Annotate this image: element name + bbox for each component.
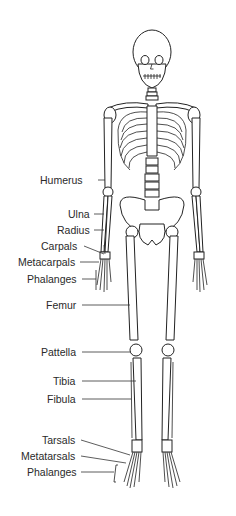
feet	[114, 440, 180, 488]
label-radius: Radius	[57, 224, 90, 236]
left-arm	[96, 118, 113, 292]
label-metacarpals: Metacarpals	[18, 256, 75, 268]
label-phalanges-hand: Phalanges	[27, 273, 77, 285]
label-phalanges-foot: Phalanges	[27, 466, 77, 478]
label-tarsals: Tarsals	[42, 434, 75, 446]
femurs	[126, 236, 178, 340]
label-carpals: Carpals	[41, 240, 77, 252]
label-humerus: Humerus	[40, 174, 83, 186]
lower-legs	[131, 358, 173, 440]
label-femur: Femur	[46, 299, 76, 311]
label-metatarsals: Metatarsals	[21, 450, 75, 462]
label-fibula: Fibula	[47, 393, 76, 405]
patellas	[130, 344, 174, 356]
label-pattella: Pattella	[41, 346, 76, 358]
skeleton-diagram: Humerus Ulna Radius Carpals Metacarpals …	[0, 0, 236, 516]
skull	[133, 30, 171, 88]
label-tibia: Tibia	[53, 375, 75, 387]
label-ulna: Ulna	[68, 208, 90, 220]
right-arm	[191, 118, 207, 292]
cervical-spine	[146, 88, 158, 100]
lumbar-spine	[145, 158, 159, 197]
